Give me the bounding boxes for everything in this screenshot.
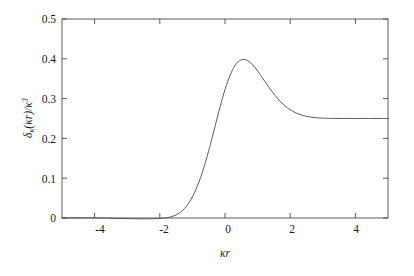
plot-area [0,0,414,276]
chart-figure: δκ(κr)/κ3 0.5 0.4 0.3 0.2 0.1 0 -4 -2 0 … [0,0,414,276]
data-curve [62,59,388,218]
x-axis-ticks [95,19,356,218]
